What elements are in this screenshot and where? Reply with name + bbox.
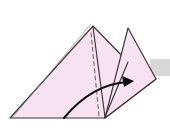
figure-root: paper-folding step diagram A flat triang… <box>0 0 170 131</box>
paper-folding-diagram: paper-folding step diagram A flat triang… <box>0 0 170 131</box>
